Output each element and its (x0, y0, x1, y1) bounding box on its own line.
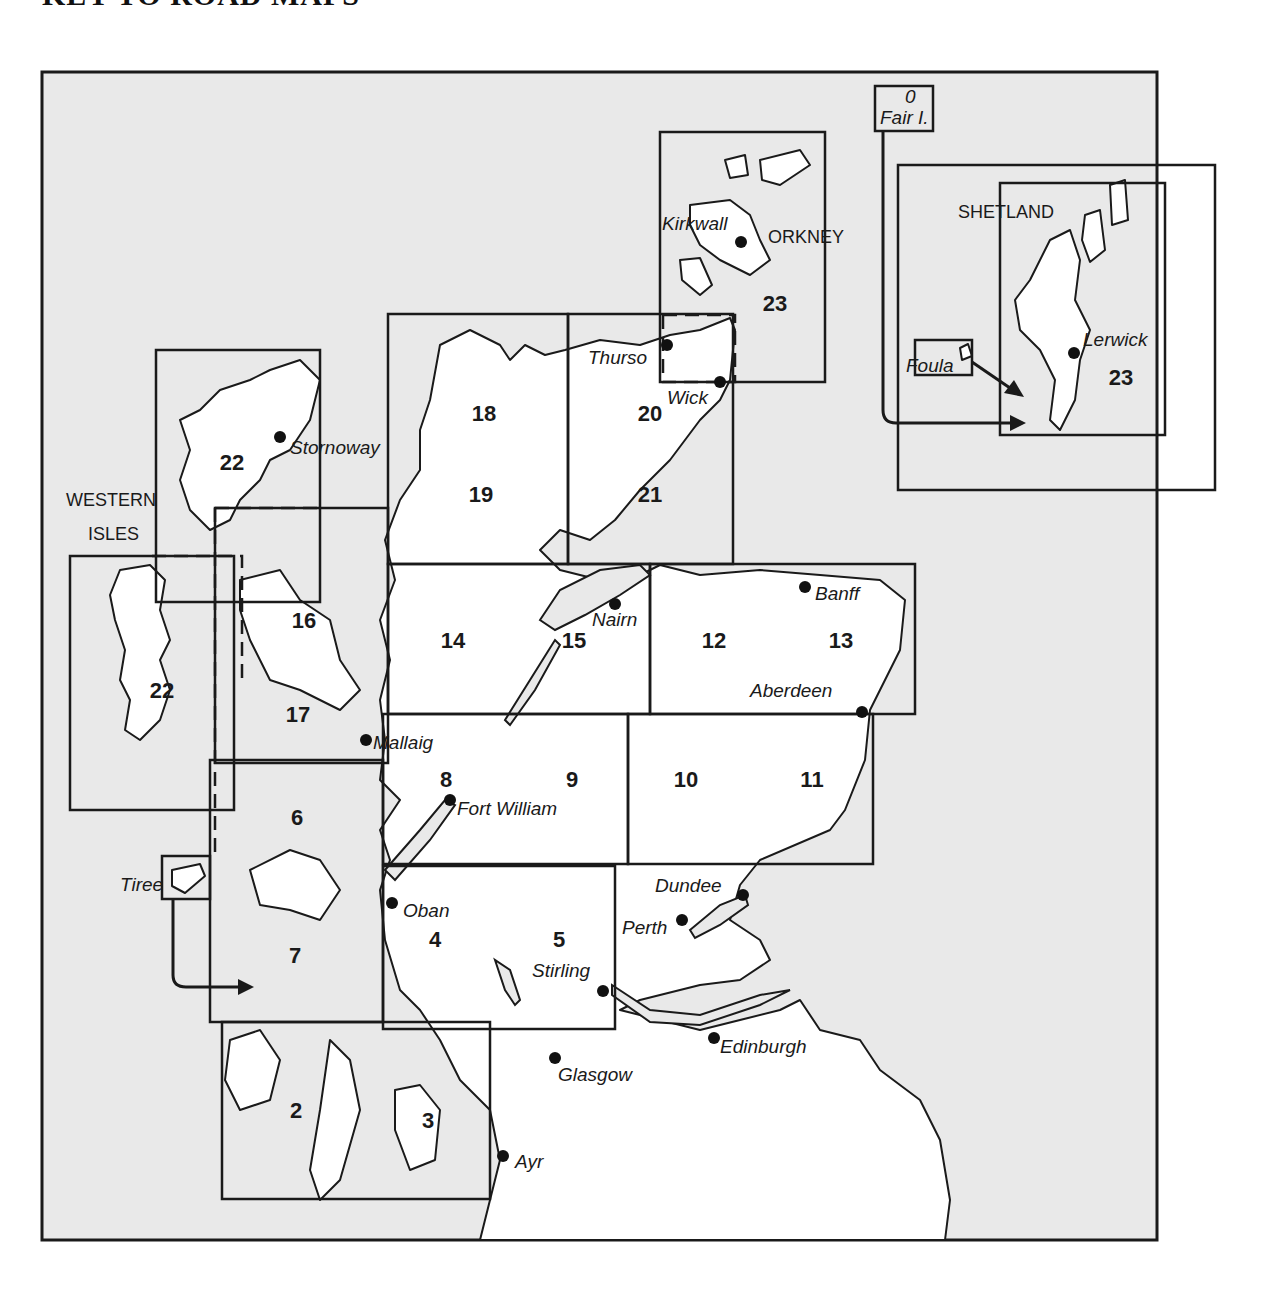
sheet-number-17[interactable]: 17 (286, 702, 310, 727)
town-label-fort-william: Fort William (457, 798, 557, 819)
oban-marker[interactable] (386, 897, 398, 909)
town-label-mallaig: Mallaig (373, 732, 434, 753)
perth-marker[interactable] (676, 914, 688, 926)
sheet-number-18[interactable]: 18 (472, 401, 496, 426)
sheet-number-16[interactable]: 16 (292, 608, 316, 633)
region-label-shetland: SHETLAND (958, 202, 1054, 222)
sheet-number-22-lewis[interactable]: 22 (220, 450, 244, 475)
sheet-number-11[interactable]: 11 (800, 767, 823, 792)
stornoway-marker[interactable] (274, 431, 286, 443)
sheet-number-23-orkney[interactable]: 23 (763, 291, 787, 316)
town-label-stirling: Stirling (532, 960, 591, 981)
town-label-fair-isle: Fair I. (880, 107, 929, 128)
sheet-number-8[interactable]: 8 (440, 767, 452, 792)
edinburgh-marker[interactable] (708, 1032, 720, 1044)
town-label-dundee: Dundee (655, 875, 722, 896)
town-label-foula: Foula (906, 355, 954, 376)
town-label-oban: Oban (403, 900, 449, 921)
town-label-wick: Wick (667, 387, 709, 408)
mallaig-marker[interactable] (360, 734, 372, 746)
fort-william-marker[interactable] (444, 794, 456, 806)
dundee-marker[interactable] (737, 889, 749, 901)
sheet-number-23-shetland[interactable]: 23 (1109, 365, 1133, 390)
region-label-isles: ISLES (88, 524, 139, 544)
banff-marker[interactable] (799, 581, 811, 593)
town-label-ayr: Ayr (514, 1151, 544, 1172)
sheet-number-20[interactable]: 20 (638, 401, 662, 426)
sheet-number-7[interactable]: 7 (289, 943, 301, 968)
sheet-number-9[interactable]: 9 (566, 767, 578, 792)
sheet-number-6[interactable]: 6 (291, 805, 303, 830)
stirling-marker[interactable] (597, 985, 609, 997)
sheet-number-19[interactable]: 19 (469, 482, 493, 507)
sheet-number-22-uist[interactable]: 22 (150, 678, 174, 703)
sheet-number-5[interactable]: 5 (553, 927, 565, 952)
sheet-number-21[interactable]: 21 (638, 482, 662, 507)
town-label-edinburgh: Edinburgh (720, 1036, 807, 1057)
region-label-orkney: ORKNEY (768, 227, 844, 247)
ayr-marker[interactable] (497, 1150, 509, 1162)
orkney-small-isle (725, 155, 748, 178)
town-label-stornoway: Stornoway (290, 437, 381, 458)
town-label-kirkwall: Kirkwall (662, 213, 728, 234)
fair-isle-glyph: 0 (905, 86, 916, 107)
wick-marker[interactable] (714, 376, 726, 388)
town-label-thurso: Thurso (588, 347, 647, 368)
town-label-glasgow: Glasgow (558, 1064, 633, 1085)
road-map-key: Kirkwall Lerwick Foula Fair I. 0 Thurso … (0, 0, 1271, 1309)
region-label-western: WESTERN (66, 490, 156, 510)
town-label-perth: Perth (622, 917, 667, 938)
town-label-tiree: Tiree (120, 874, 163, 895)
kirkwall-marker[interactable] (735, 236, 747, 248)
town-label-lerwick: Lerwick (1083, 329, 1149, 350)
aberdeen-marker[interactable] (856, 706, 868, 718)
sheet-number-4[interactable]: 4 (429, 927, 442, 952)
thurso-marker[interactable] (661, 339, 673, 351)
sheet-number-3[interactable]: 3 (422, 1108, 434, 1133)
sheet-number-13[interactable]: 13 (829, 628, 853, 653)
town-label-banff: Banff (815, 583, 861, 604)
town-label-nairn: Nairn (592, 609, 637, 630)
glasgow-marker[interactable] (549, 1052, 561, 1064)
sheet-number-14[interactable]: 14 (441, 628, 466, 653)
town-label-aberdeen: Aberdeen (749, 680, 832, 701)
shetland-unst (1110, 180, 1128, 225)
lerwick-marker[interactable] (1068, 347, 1080, 359)
sheet-number-12[interactable]: 12 (702, 628, 726, 653)
sheet-number-15[interactable]: 15 (562, 628, 586, 653)
sheet-number-10[interactable]: 10 (674, 767, 698, 792)
sheet-number-2[interactable]: 2 (290, 1098, 302, 1123)
